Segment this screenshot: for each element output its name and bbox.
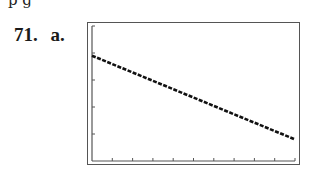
data-line: [92, 56, 295, 140]
axes: [92, 26, 295, 161]
axis-ticks: [92, 26, 295, 161]
line-chart: [0, 0, 309, 181]
